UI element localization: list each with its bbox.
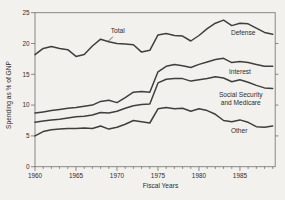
spending-gnp-line-chart-figure: 0510152025196019651970197519801985TotalD… — [0, 0, 285, 200]
x-axis-tick-label: 1960 — [28, 172, 43, 179]
defense-label: Defense — [231, 29, 256, 36]
other-label: Other — [231, 127, 248, 134]
y-axis-tick-label: 20 — [22, 40, 30, 47]
y-axis-tick-label: 15 — [22, 71, 30, 78]
y-axis-tick-label: 25 — [22, 9, 30, 16]
y-axis-tick-label: 5 — [26, 132, 30, 139]
x-axis-tick-label: 1970 — [110, 172, 125, 179]
total-label: Total — [111, 27, 125, 34]
x-axis-title: Fiscal Years — [143, 182, 179, 189]
y-axis-title: Spending as % of GNP — [5, 60, 13, 128]
x-axis-tick-label: 1975 — [151, 172, 166, 179]
spending-gnp-line-chart: 0510152025196019651970197519801985TotalD… — [0, 0, 285, 200]
x-axis-tick-label: 1980 — [192, 172, 207, 179]
y-axis-tick-label: 0 — [26, 163, 30, 170]
interest-label: Interest — [229, 68, 251, 75]
y-axis-tick-label: 10 — [22, 101, 30, 108]
ss-label-line2: and Medicare — [221, 99, 261, 106]
x-axis-tick-label: 1985 — [233, 172, 248, 179]
ss-label-line1: Social Security — [219, 91, 263, 99]
x-axis-tick-label: 1965 — [69, 172, 84, 179]
